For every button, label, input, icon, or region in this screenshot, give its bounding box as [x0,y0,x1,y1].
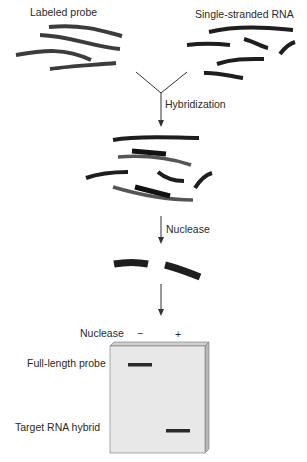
arrowhead-icon [158,120,164,127]
target-rna-hybrid-label: Target RNA hybrid [15,421,100,433]
hybrid-mixture [86,137,212,200]
labeled-probe-strands [16,26,122,69]
nuclease-step-label: Nuclease [166,223,210,235]
plus-lane-label: + [175,328,181,340]
labeled-probe-label: Labeled probe [30,6,97,18]
target-rna-hybrid-band [166,429,190,433]
gel [110,342,209,453]
gel-nuclease-label: Nuclease [80,327,124,339]
full-length-probe-label: Full-length probe [27,357,106,369]
hybridization-label: Hybridization [165,98,226,110]
arrowhead-icon [158,309,164,316]
single-stranded-rna-strands [187,28,295,78]
single-stranded-rna-label: Single-stranded RNA [195,8,294,20]
minus-lane-label: − [137,327,143,339]
arrowhead-icon [158,237,164,244]
diagram-canvas [0,0,307,462]
full-length-probe-band [128,363,152,367]
protected-fragments [114,263,200,278]
